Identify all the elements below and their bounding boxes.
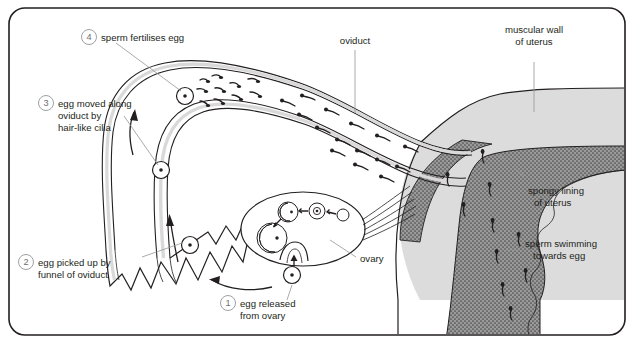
label-oviduct-text: oviduct <box>340 35 371 46</box>
step-3-line-2: oviduct by <box>58 110 101 121</box>
step-1-line-1: egg released <box>240 298 295 309</box>
step-4-number: 4 <box>86 32 91 42</box>
fertilisation-diagram: 4 sperm fertilises egg 3 egg moved along… <box>0 0 634 345</box>
step-1-line-2: from ovary <box>240 310 286 321</box>
label-ovary-text: ovary <box>360 253 384 264</box>
step-3-line-1: egg moved along <box>58 98 132 109</box>
label-muscular-wall-line-2: of uterus <box>515 36 553 47</box>
egg-at-funnel <box>182 237 199 254</box>
figure-canvas: 4 sperm fertilises egg 3 egg moved along… <box>0 0 634 345</box>
label-spongy-lining-line-1: spongy lining <box>528 185 584 196</box>
label-spongy-lining-line-2: of uterus <box>534 197 572 208</box>
label-sperm-swimming-line-2: towards egg <box>533 250 585 261</box>
step-4-line-1: sperm fertilises egg <box>101 32 184 43</box>
step-2-line-1: egg picked up by <box>38 257 111 268</box>
label-sperm-swimming-line-1: sperm swimming <box>525 238 597 249</box>
step-1-number: 1 <box>225 298 230 308</box>
step-2-number: 2 <box>23 257 28 267</box>
step-2-line-2: funnel of oviduct <box>38 269 108 280</box>
egg-in-oviduct <box>153 162 170 179</box>
step-3-line-3: hair-like cilia <box>58 122 111 133</box>
egg-released <box>284 267 301 284</box>
step-3-number: 3 <box>43 98 48 108</box>
label-muscular-wall-line-1: muscular wall <box>505 24 563 35</box>
